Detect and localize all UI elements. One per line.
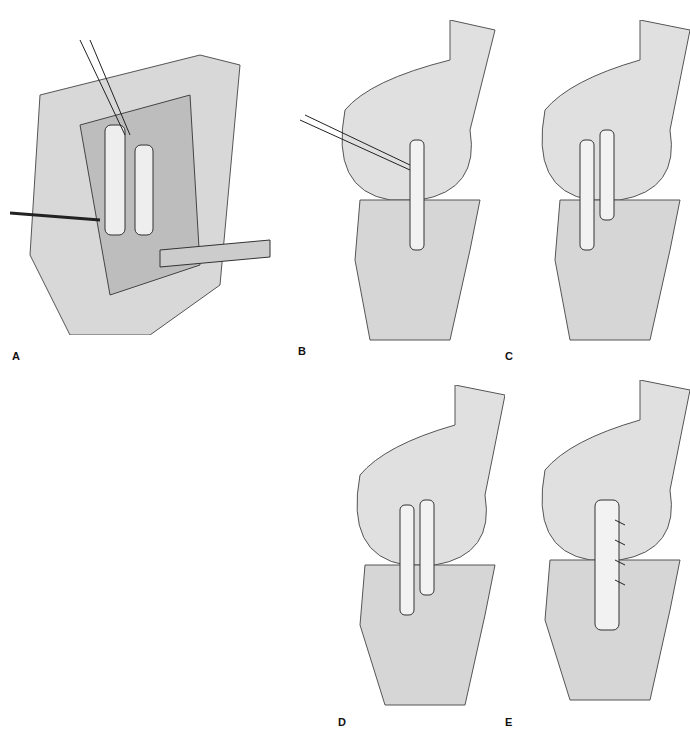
panel-label-c: C	[505, 350, 513, 362]
panel-label-b: B	[298, 345, 306, 357]
panel-d-illustration	[335, 385, 505, 710]
panel-label-d: D	[338, 716, 346, 728]
panel-label-e: E	[505, 716, 512, 728]
panel-b-illustration	[300, 20, 500, 350]
panel-a-illustration	[10, 35, 280, 335]
panel-e-illustration	[520, 380, 690, 710]
panel-label-a: A	[12, 350, 20, 362]
panel-c-illustration	[520, 20, 690, 350]
